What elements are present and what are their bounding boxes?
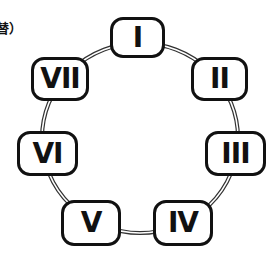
node-label: II xyxy=(210,65,229,93)
node-label: IV xyxy=(168,209,198,237)
node-label: I xyxy=(133,24,142,52)
node-III: III xyxy=(205,131,266,176)
node-label: VII xyxy=(40,65,80,93)
node-label: III xyxy=(221,140,249,168)
node-I: I xyxy=(110,17,165,58)
node-V: V xyxy=(61,200,121,246)
node-VII: VII xyxy=(31,57,89,101)
node-VI: VI xyxy=(17,131,78,176)
node-II: II xyxy=(191,57,248,101)
node-IV: IV xyxy=(153,200,213,246)
node-label: V xyxy=(81,209,102,237)
node-label: VI xyxy=(32,140,62,168)
